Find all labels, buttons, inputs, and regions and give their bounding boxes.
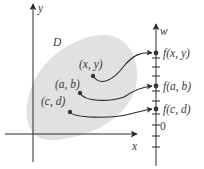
w-axis-label: w (160, 25, 168, 37)
image-label-fab: f(a, b) (163, 80, 191, 93)
point-label-cd: (c, d) (41, 95, 65, 108)
region-d-blob (27, 35, 137, 140)
w-zero-label: 0 (160, 120, 166, 132)
point-label-ab: (a, b) (55, 78, 80, 91)
point-label-xy: (x, y) (79, 58, 103, 71)
image-label-fxy: f(x, y) (163, 47, 190, 60)
y-axis-label: y (37, 2, 44, 15)
image-point-fab (154, 84, 159, 89)
function-mapping-diagram: y x w 0 D (x, y) (a, b) (c, d) f(x, y) f… (0, 0, 204, 169)
image-label-fcd: f(c, d) (163, 103, 191, 116)
x-axis-label: x (131, 140, 138, 152)
image-point-fcd (154, 107, 159, 112)
region-label: D (52, 36, 62, 48)
image-point-fxy (154, 51, 159, 56)
